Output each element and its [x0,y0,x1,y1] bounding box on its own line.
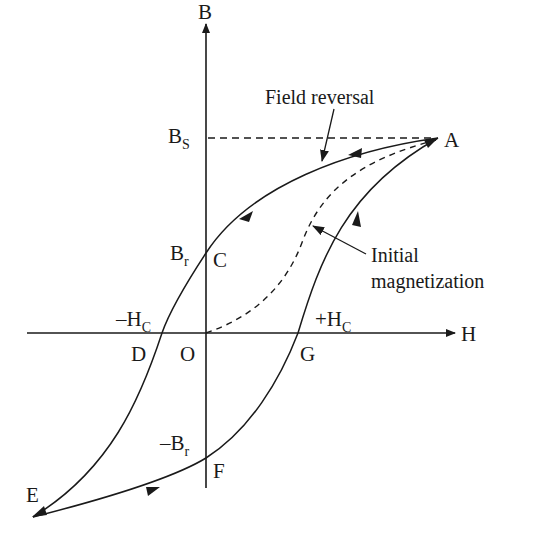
field-reversal-annotation: Field reversal [265,86,375,108]
direction-arrow-icon [352,211,361,227]
point-f-label: F [213,459,225,483]
point-c-label: C [213,248,227,272]
initial-magnetization-annotation-line2: magnetization [371,270,484,293]
point-d-label: D [131,342,146,366]
direction-arrow-icon [146,487,160,496]
remanence-label: Br [170,241,189,269]
hysteresis-svg: B H A C D O G F E BS Br –Br –HC +HC Fiel… [0,0,552,542]
point-a-label: A [444,128,460,152]
direction-arrow-icon [32,506,47,517]
pos-coercivity-label: +HC [315,307,351,335]
direction-arrow-icon [239,211,253,222]
saturation-label: BS [168,124,190,152]
point-e-label: E [26,483,39,507]
h-axis-label: H [461,322,476,346]
neg-coercivity-label: –HC [115,307,151,335]
hysteresis-diagram: B H A C D O G F E BS Br –Br –HC +HC Fiel… [0,0,552,542]
field-reversal-pointer [322,109,334,161]
direction-arrow-icon [348,148,362,158]
point-g-label: G [300,342,315,366]
descending-branch [33,138,438,517]
ascending-branch [33,138,438,517]
initial-magnetization-curve [206,140,436,333]
neg-remanence-label: –Br [159,431,190,459]
point-o-label: O [180,342,195,366]
b-axis-label: B [198,0,212,24]
initial-magnetization-annotation-line1: Initial [371,244,419,266]
